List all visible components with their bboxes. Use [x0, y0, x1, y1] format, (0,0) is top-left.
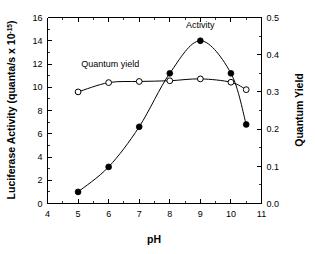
data-point — [228, 79, 234, 85]
y2-tick-label: 0.3 — [267, 87, 280, 97]
y-tick-label: 10 — [32, 82, 42, 92]
data-point — [167, 70, 173, 76]
y-axis-left-title-exponent: -15 — [6, 24, 13, 34]
y-tick-label: 0 — [37, 199, 42, 209]
data-point — [136, 79, 142, 85]
y-tick-label: 2 — [37, 175, 42, 185]
annotation-label: Quantum yield — [81, 59, 139, 69]
y-tick-label: 12 — [32, 59, 42, 69]
annotation-label: Activity — [186, 20, 215, 30]
y2-tick-label: 0.4 — [267, 50, 280, 60]
y-tick-label: 16 — [32, 13, 42, 23]
data-point — [75, 89, 81, 95]
data-point — [75, 189, 81, 195]
data-point — [243, 87, 249, 93]
data-point — [228, 70, 234, 76]
y-axis-left-title-close: ) — [5, 21, 17, 25]
y-axis-right-title: Quantum Yield — [293, 73, 305, 147]
x-tick-label: 5 — [76, 209, 81, 219]
data-point — [136, 124, 142, 130]
chart-figure: 4567891011 0246810121416 0.00.10.20.30.4… — [0, 0, 315, 254]
y-axis-left-title-main: Luciferase Activity (quanta/s x 10 — [5, 33, 17, 199]
data-point — [243, 122, 249, 128]
y2-tick-label: 0.0 — [267, 199, 280, 209]
y2-tick-label: 0.2 — [267, 124, 280, 134]
x-tick-label: 7 — [137, 209, 142, 219]
data-point — [106, 80, 112, 86]
x-tick-label: 8 — [167, 209, 172, 219]
data-point — [167, 78, 173, 84]
y-tick-label: 6 — [37, 129, 42, 139]
y2-tick-label: 0.5 — [267, 13, 280, 23]
x-tick-label: 10 — [226, 209, 236, 219]
x-tick-label: 4 — [45, 209, 50, 219]
chart-svg: 4567891011 0246810121416 0.00.10.20.30.4… — [0, 0, 315, 254]
x-tick-label: 11 — [257, 209, 266, 219]
data-point — [197, 76, 203, 82]
x-tick-label: 6 — [106, 209, 111, 219]
x-tick-label: 9 — [198, 209, 203, 219]
y2-tick-label: 0.1 — [267, 162, 280, 172]
y-tick-label: 14 — [32, 36, 42, 46]
y-axis-left-title: Luciferase Activity (quanta/s x 10-15) — [5, 21, 17, 200]
data-point — [106, 164, 112, 170]
y-tick-label: 4 — [37, 152, 42, 162]
data-point — [197, 38, 203, 44]
y-tick-label: 8 — [37, 106, 42, 116]
x-axis-title: pH — [147, 233, 161, 245]
